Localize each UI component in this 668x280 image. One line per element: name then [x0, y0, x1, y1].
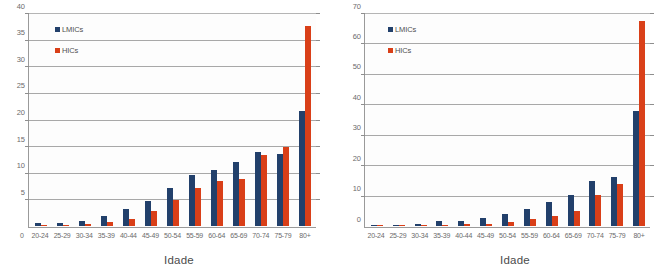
bar-group — [628, 14, 650, 226]
legend-label-lmics: LMICs — [395, 26, 416, 34]
bar-hics-70-74 — [595, 195, 601, 226]
x-tick-label: 40-44 — [453, 232, 475, 239]
bar-hics-20-24 — [41, 225, 47, 226]
bar-group — [140, 14, 162, 226]
bar-group — [184, 14, 206, 226]
legend-item-hics: HICs — [55, 47, 83, 55]
x-tick-label: 40-44 — [117, 232, 139, 239]
y-tickmark — [361, 165, 365, 166]
y-tickmark — [25, 93, 29, 94]
y-tickmark-right — [316, 13, 320, 14]
bar-hics-25-29 — [63, 225, 69, 226]
y-tickmark-right — [316, 173, 320, 174]
y-zero-label-left: 0 — [20, 232, 24, 239]
legend-right: LMICs HICs — [388, 26, 416, 67]
y-tick-label: 20 — [17, 109, 25, 117]
legend-label-lmics: LMICs — [62, 26, 83, 34]
bar-hics-25-29 — [399, 225, 405, 226]
y-tickmark — [361, 196, 365, 197]
bar-hics-35-39 — [442, 225, 448, 226]
y-tickmark — [25, 40, 29, 41]
x-tick-label: 50-54 — [161, 232, 183, 239]
bar-hics-30-34 — [85, 224, 91, 226]
bar-group — [497, 14, 519, 226]
x-tick-label: 45-49 — [139, 232, 161, 239]
bar-group — [366, 14, 388, 226]
x-tick-label: 75-79 — [272, 232, 294, 239]
bar-hics-65-69 — [574, 211, 580, 226]
y-tick-label: 40 — [17, 3, 25, 11]
bar-group — [272, 14, 294, 226]
x-tick-label: 75-79 — [606, 232, 628, 239]
x-tick-label: 35-39 — [95, 232, 117, 239]
x-tick-label: 65-69 — [562, 232, 584, 239]
y-tickmark-right — [316, 93, 320, 94]
y-tickmark — [25, 13, 29, 14]
x-tick-label: 80+ — [294, 232, 316, 239]
bar-group — [475, 14, 497, 226]
x-tick-label: 30-34 — [73, 232, 95, 239]
y-tickmark — [361, 13, 365, 14]
y-tickmark — [25, 173, 29, 174]
y-tick-label: 30 — [17, 56, 25, 64]
y-tickmark-right — [650, 74, 654, 75]
bar-hics-35-39 — [107, 222, 113, 226]
y-tick-label: 50 — [353, 64, 361, 72]
bar-group — [96, 14, 118, 226]
chart-panel-left: 510152025303540 0 20-2425-2930-3435-3940… — [0, 0, 334, 280]
bar-hics-55-59 — [195, 188, 201, 226]
y-tickmark-right — [316, 66, 320, 67]
x-tick-label: 60-64 — [206, 232, 228, 239]
bar-hics-40-44 — [129, 219, 135, 226]
x-tick-label: 30-34 — [409, 232, 431, 239]
y-tickmark-right — [650, 13, 654, 14]
x-tick-label: 25-29 — [51, 232, 73, 239]
x-tick-label: 20-24 — [29, 232, 51, 239]
bar-hics-65-69 — [239, 179, 245, 226]
legend-swatch-hics-icon — [55, 48, 60, 53]
x-tick-label: 65-69 — [228, 232, 250, 239]
bar-group — [162, 14, 184, 226]
bar-group — [118, 14, 140, 226]
bar-hics-80+ — [305, 26, 311, 226]
y-tickmark — [361, 135, 365, 136]
bar-hics-45-49 — [151, 211, 157, 226]
bar-group — [563, 14, 585, 226]
bar-hics-50-54 — [173, 200, 179, 227]
bar-hics-40-44 — [464, 224, 470, 226]
bar-group — [453, 14, 475, 226]
legend-swatch-lmics-icon — [388, 27, 393, 32]
y-tick-label: 60 — [353, 33, 361, 41]
bar-group — [432, 14, 454, 226]
bar-group — [541, 14, 563, 226]
y-tick-label: 35 — [17, 29, 25, 37]
y-tick-label: 10 — [353, 185, 361, 193]
bar-group — [294, 14, 316, 226]
y-tick-label: 15 — [17, 136, 25, 144]
x-tick-label: 25-29 — [387, 232, 409, 239]
y-tick-label: 40 — [353, 94, 361, 102]
legend-label-hics: HICs — [395, 47, 411, 55]
y-tickmark-right — [316, 120, 320, 121]
x-tick-label: 20-24 — [365, 232, 387, 239]
bar-hics-55-59 — [530, 219, 536, 226]
legend-left: LMICs HICs — [55, 26, 83, 67]
bar-hics-75-79 — [283, 147, 289, 226]
y-tick-label: 20 — [353, 155, 361, 163]
bar-group — [228, 14, 250, 226]
legend-swatch-hics-icon — [388, 48, 393, 53]
chart-panel-right: 010203040506070 20-2425-2930-3435-3940-4… — [334, 0, 668, 280]
x-axis-title-left: Idade — [12, 254, 346, 266]
x-tick-label: 35-39 — [431, 232, 453, 239]
charts-row: 510152025303540 0 20-2425-2930-3435-3940… — [0, 0, 668, 280]
y-tick-label: 0 — [357, 216, 361, 224]
y-tickmark — [25, 199, 29, 200]
y-tickmark-right — [650, 135, 654, 136]
x-tick-label: 55-59 — [518, 232, 540, 239]
y-tickmark — [25, 120, 29, 121]
y-tick-label: 25 — [17, 83, 25, 91]
bar-group — [584, 14, 606, 226]
bar-hics-70-74 — [261, 155, 267, 226]
y-tickmark-right — [650, 104, 654, 105]
y-tickmark — [25, 66, 29, 67]
